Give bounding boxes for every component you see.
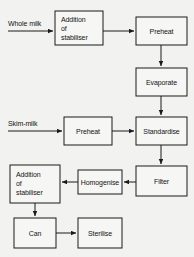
node-homogenise[interactable]: Homogenise (78, 170, 122, 194)
node-label-addition-of-stabiliser-top-line3: stabiliser (61, 34, 88, 41)
flowchart-svg: Whole milk Skim-milk Addition of stabili… (0, 0, 194, 257)
node-label-preheat-top: Preheat (150, 28, 174, 35)
flowchart-canvas: Whole milk Skim-milk Addition of stabili… (0, 0, 194, 257)
node-label-addition-of-stabiliser-bottom-line3: stabiliser (16, 189, 43, 196)
node-addition-of-stabiliser-bottom[interactable]: Addition of stabiliser (10, 165, 60, 203)
node-label-filter: Filter (154, 178, 170, 185)
node-can[interactable]: Can (14, 218, 56, 248)
node-label-sterilise: Sterilise (88, 230, 112, 237)
node-label-addition-of-stabiliser-top-line2: of (61, 25, 67, 32)
node-sterilise[interactable]: Sterilise (78, 218, 122, 248)
node-evaporate[interactable]: Evaporate (136, 68, 187, 96)
node-label-addition-of-stabiliser-top-line1: Addition (61, 16, 86, 23)
node-preheat-top[interactable]: Preheat (136, 17, 187, 45)
node-label-addition-of-stabiliser-bottom-line2: of (16, 180, 22, 187)
node-preheat-bottom[interactable]: Preheat (64, 117, 112, 145)
node-label-can: Can (29, 230, 42, 237)
node-addition-of-stabiliser-top[interactable]: Addition of stabiliser (55, 11, 103, 45)
node-label-addition-of-stabiliser-bottom-line1: Addition (16, 171, 41, 178)
node-label-standardise: Standardise (143, 128, 179, 135)
node-label-evaporate: Evaporate (146, 79, 177, 87)
input-label-skim-milk: Skim-milk (8, 120, 38, 127)
node-standardise[interactable]: Standardise (136, 117, 187, 145)
node-label-preheat-bottom: Preheat (76, 128, 100, 135)
node-label-homogenise: Homogenise (81, 179, 120, 187)
node-filter[interactable]: Filter (136, 166, 187, 196)
input-label-whole-milk: Whole milk (8, 20, 42, 27)
